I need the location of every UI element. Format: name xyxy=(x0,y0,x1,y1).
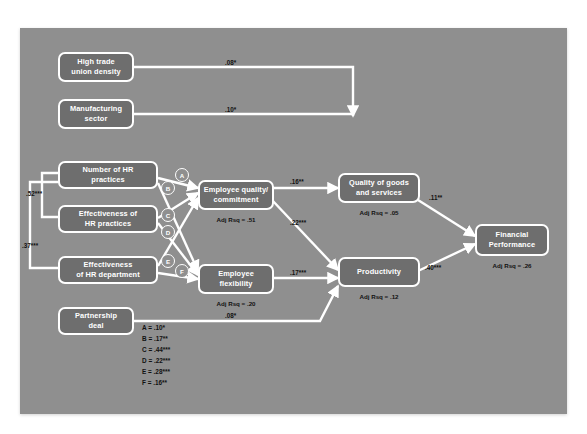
node-employee-quality-commitment[interactable]: Employee quality/commitment xyxy=(198,180,274,210)
marker-c: C xyxy=(161,208,175,222)
node-partnership-deal[interactable]: Partnershipdeal xyxy=(58,307,134,335)
rsq-financial-performance: Adj Rsq = .26 xyxy=(475,262,549,269)
path-label-flex-to-productivity: .17*** xyxy=(290,269,306,276)
path-label-quality-to-productivity: .22*** xyxy=(290,219,306,226)
marker-b: B xyxy=(161,181,175,195)
legend-item-f: F = .16** xyxy=(142,377,170,388)
legend-item-c: C = .44*** xyxy=(142,344,170,355)
node-effectiveness-of-hr-practices[interactable]: Effectiveness ofHR practices xyxy=(58,205,158,233)
path-label-union-to-quality: .08* xyxy=(225,59,236,66)
diagram-canvas: High tradeunion density Manufacturingsec… xyxy=(20,28,567,414)
node-productivity[interactable]: Productivity xyxy=(338,257,420,287)
path-label-goods-to-financial: .11** xyxy=(429,194,442,201)
rsq-employee-quality: Adj Rsq = .51 xyxy=(198,216,274,223)
node-manufacturing-sector[interactable]: Manufacturingsector xyxy=(58,99,134,129)
node-number-of-hr-practices[interactable]: Number of HRpractices xyxy=(58,161,158,189)
diagram-stage: High tradeunion density Manufacturingsec… xyxy=(0,0,587,434)
node-employee-flexibility[interactable]: Employeeflexibility xyxy=(198,264,274,294)
marker-a: A xyxy=(175,168,189,182)
legend-item-b: B = .17** xyxy=(142,333,170,344)
marker-e: E xyxy=(161,254,175,268)
wire-goods-to-financial xyxy=(418,200,475,236)
path-label-hrnum-to-hrdept: .37*** xyxy=(22,242,38,249)
path-label-productivity-to-financial: .40*** xyxy=(425,264,441,271)
marker-d: D xyxy=(161,225,175,239)
legend-item-a: A = .10* xyxy=(142,322,170,333)
node-financial-performance[interactable]: FinancialPerformance xyxy=(475,224,549,256)
rsq-productivity: Adj Rsq = .12 xyxy=(338,293,420,300)
path-label-partnership-to-productivity: .08* xyxy=(225,312,236,319)
path-label-quality-to-goods: .16** xyxy=(290,178,304,185)
marker-f: F xyxy=(175,264,189,278)
node-effectiveness-of-hr-department[interactable]: Effectivenessof HR department xyxy=(58,256,158,284)
legend-item-e: E = .28*** xyxy=(142,366,170,377)
legend-block: A = .10* B = .17** C = .44*** D = .22***… xyxy=(142,322,170,388)
legend-item-d: D = .22*** xyxy=(142,355,170,366)
wire-quality-to-productivity xyxy=(272,200,338,270)
node-high-trade-union-density[interactable]: High tradeunion density xyxy=(58,52,134,82)
node-quality-of-goods-and-services[interactable]: Quality of goodsand services xyxy=(338,173,420,203)
rsq-quality-of-goods: Adj Rsq = .05 xyxy=(338,209,420,216)
path-label-hrnum-to-hreff: .52*** xyxy=(26,190,42,197)
rsq-employee-flexibility: Adj Rsq = .20 xyxy=(198,300,274,307)
wire-union-to-quality xyxy=(132,67,353,116)
path-label-manufacturing-to-quality: .10* xyxy=(225,106,236,113)
